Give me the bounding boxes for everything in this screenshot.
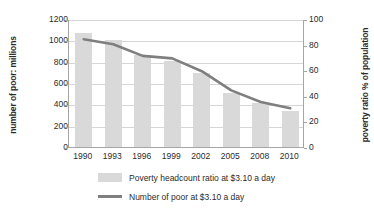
y-axis-right-tick-label: 40 [309,92,349,101]
plot-area [68,20,304,148]
y-axis-left-tick-label: 800 [28,58,68,67]
y-axis-left-tick-label: 200 [28,122,68,131]
chart-legend: Poverty headcount ratio at $3.10 a day N… [0,168,374,206]
y-axis-left-tick-label: 1200 [28,15,68,24]
poverty-ratio-line [84,39,291,108]
legend-label-bar: Poverty headcount ratio at $3.10 a day [129,173,275,183]
bar-swatch-icon [98,173,122,182]
x-axis-tick-label: 2010 [269,151,309,161]
y-axis-left-tick-label: 600 [28,79,68,88]
legend-item-bar: Poverty headcount ratio at $3.10 a day [0,168,374,187]
y-axis-right-tick-label: 20 [309,117,349,126]
y-axis-right-title: poverty ratio % of population [360,20,370,150]
y-axis-right-tick-label: 0 [309,143,349,152]
y-axis-left-tick-label: 1000 [28,36,68,45]
y-axis-right-tickmark [304,148,307,149]
y-axis-left-tickmark [65,148,68,149]
line-swatch-icon [98,195,122,198]
line-series [69,20,305,148]
x-axis-ticks: 19901993199619992002200520082010 [68,151,304,165]
y-axis-left-title: number of poor: millions [8,20,18,150]
y-axis-right-tick-label: 80 [309,41,349,50]
y-axis-left-tick-label: 400 [28,100,68,109]
chart-container: number of poor: millions poverty ratio %… [0,0,374,213]
legend-label-line: Number of poor at $3.10 a day [129,192,244,202]
legend-item-line: Number of poor at $3.10 a day [0,187,374,206]
y-axis-right-tick-label: 100 [309,15,349,24]
y-axis-right-tick-label: 60 [309,66,349,75]
